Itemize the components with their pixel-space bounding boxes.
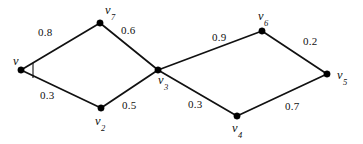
node-layer xyxy=(18,20,330,119)
graph-figure: vv7v2v3v6v4v50.80.60.30.50.90.20.30.7 xyxy=(0,0,363,144)
node-label-base: v xyxy=(258,9,264,23)
graph-node xyxy=(97,20,103,26)
node-label-base: v xyxy=(158,73,164,87)
node-label-base: v xyxy=(232,121,238,135)
node-label-base: v xyxy=(13,54,19,68)
node-label-v3: v3 xyxy=(158,74,168,89)
graph-edge xyxy=(158,31,262,70)
edge-layer xyxy=(21,23,327,116)
node-label-v7: v7 xyxy=(105,4,115,19)
edge-weight-label: 0.7 xyxy=(285,101,299,112)
graph-node xyxy=(234,113,240,119)
edge-weight-label: 0.5 xyxy=(122,100,136,111)
node-label-base: v xyxy=(95,114,101,128)
node-label-subscript: 6 xyxy=(264,18,268,28)
node-label-subscript: 7 xyxy=(111,12,115,22)
node-label-v4: v4 xyxy=(232,122,242,137)
node-label-subscript: 3 xyxy=(164,82,168,92)
graph-edge xyxy=(237,74,327,116)
node-label-subscript: 2 xyxy=(101,123,105,133)
graph-node xyxy=(259,28,265,34)
node-label-v2: v2 xyxy=(95,115,105,130)
edge-weight-label: 0.3 xyxy=(188,99,202,110)
node-label-v6: v6 xyxy=(258,10,268,25)
node-label-subscript: 4 xyxy=(238,130,242,140)
edge-weight-label: 0.6 xyxy=(121,25,135,36)
edge-weight-label: 0.9 xyxy=(212,32,226,43)
graph-edge xyxy=(21,23,100,70)
graph-node xyxy=(324,71,330,77)
node-label-v1: v xyxy=(13,55,19,68)
node-label-base: v xyxy=(337,68,343,82)
graph-node xyxy=(98,105,104,111)
node-label-v5: v5 xyxy=(337,69,347,84)
edge-weight-label: 0.8 xyxy=(38,27,52,38)
graph-canvas xyxy=(0,0,363,144)
edge-weight-label: 0.2 xyxy=(303,36,317,47)
edge-weight-label: 0.3 xyxy=(40,90,54,101)
node-label-base: v xyxy=(105,3,111,17)
node-label-subscript: 5 xyxy=(343,77,347,87)
